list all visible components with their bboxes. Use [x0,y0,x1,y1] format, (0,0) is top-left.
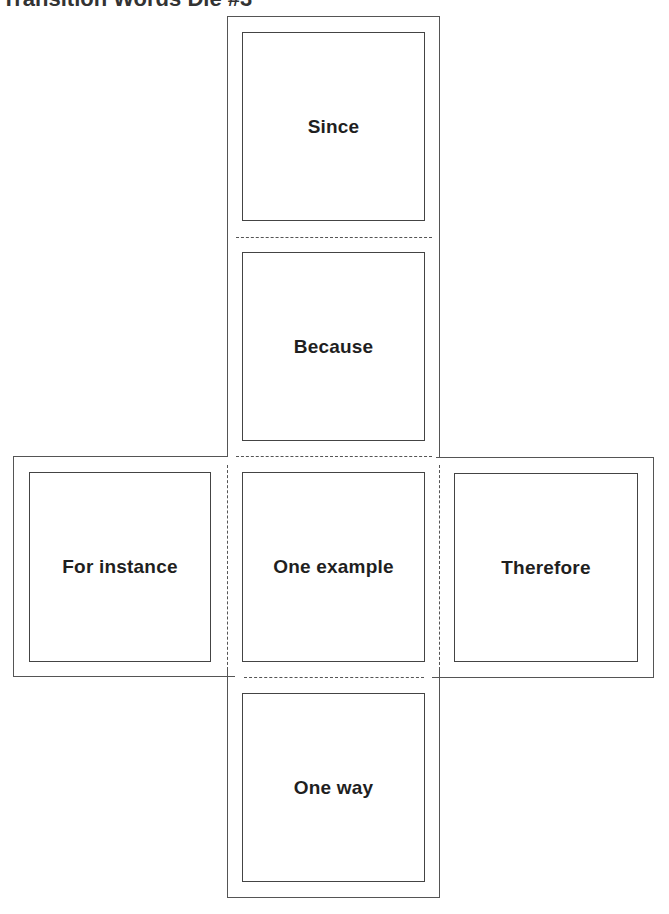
fold-line-3 [244,677,424,678]
cut-line-column-right-bottom [439,670,440,898]
page-title: Transition Words Die #3 [2,0,252,12]
cut-line-column-left-top [227,16,228,457]
cut-line-bottom [227,897,440,898]
cut-line-left-wing-left [13,456,14,677]
cut-line-right-wing-right [653,457,654,678]
die-face-center: One example [242,472,425,662]
die-face-top: Since [242,32,425,221]
fold-line-2 [236,456,432,457]
die-face-right: Therefore [454,473,638,662]
fold-line-1 [236,237,432,238]
face-label: For instance [62,556,177,578]
face-label: One way [294,777,374,799]
cut-line-column-right-top [439,16,440,457]
cut-line-left-wing-top [13,456,228,457]
fold-line-left [227,465,228,670]
die-face-upper-middle: Because [242,252,425,441]
fold-line-right [439,465,440,670]
face-label: Since [308,116,360,138]
face-label: Therefore [501,557,590,579]
face-label: Because [294,336,374,358]
cut-line-right-wing-top [436,457,654,458]
cut-line-left-wing-bottom [13,676,235,677]
cut-line-right-wing-bottom [432,677,654,678]
cut-line-top [227,16,440,17]
cut-line-column-left-bottom [227,670,228,898]
face-label: One example [273,556,393,578]
die-face-left: For instance [29,472,211,662]
die-face-bottom: One way [242,693,425,882]
